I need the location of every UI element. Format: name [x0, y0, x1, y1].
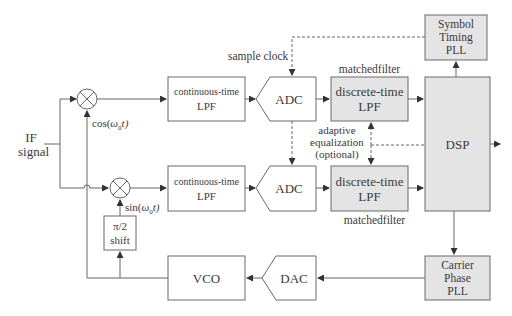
- phase-shift: π/2 shift: [104, 216, 136, 250]
- lpf-bottom-line2: LPF: [197, 189, 216, 204]
- dlpf-top-line1: discrete-time: [336, 84, 404, 99]
- dac-label: DAC: [280, 271, 307, 286]
- vco: VCO: [168, 256, 245, 300]
- dlpf-bottom-line2: LPF: [358, 189, 380, 204]
- adc-top-label: ADC: [275, 92, 302, 107]
- cppll-line2: Phase: [444, 272, 471, 285]
- adaptive-eq-line2: equalization: [305, 136, 369, 148]
- stpll-line1: Symbol: [438, 18, 474, 31]
- lpf-top: continuous-time LPF: [168, 77, 245, 121]
- dac: DAC: [272, 256, 316, 300]
- adaptive-eq-line1: adaptive: [305, 124, 369, 136]
- adc-bottom-label: ADC: [275, 181, 302, 196]
- matched-filter-top-caption: matchedfilter: [331, 63, 408, 76]
- lpf-top-line1: continuous-time: [174, 84, 239, 99]
- adc-top: ADC: [262, 77, 316, 121]
- adaptive-equalization-label: adaptive equalization (optional): [305, 124, 369, 160]
- dlpf-top-line2: LPF: [358, 99, 380, 114]
- if-label-line2: signal: [18, 145, 44, 159]
- stpll-line3: PLL: [446, 44, 466, 57]
- sample-clock-label: sample clock: [228, 50, 288, 63]
- dlpf-bottom: discrete-time LPF: [331, 166, 408, 211]
- adc-bottom: ADC: [262, 166, 316, 211]
- lpf-bottom-line1: continuous-time: [174, 174, 239, 189]
- dsp: DSP: [425, 77, 490, 211]
- matched-filter-bottom-caption: matchedfilter: [336, 214, 413, 227]
- lpf-top-line2: LPF: [197, 99, 216, 114]
- phase-shift-line2: shift: [110, 233, 130, 247]
- vco-label: VCO: [193, 271, 220, 286]
- cos-label: cos(ω0t): [92, 117, 128, 135]
- dlpf-bottom-line1: discrete-time: [336, 174, 404, 189]
- dsp-label: DSP: [446, 137, 470, 152]
- symbol-timing-pll: Symbol Timing PLL: [425, 15, 487, 60]
- carrier-phase-pll: Carrier Phase PLL: [425, 256, 490, 300]
- phase-shift-line1: π/2: [113, 219, 127, 233]
- lpf-bottom: continuous-time LPF: [168, 166, 245, 211]
- cppll-line1: Carrier: [441, 259, 474, 272]
- cppll-line3: PLL: [447, 285, 467, 298]
- stpll-line2: Timing: [439, 31, 472, 44]
- dlpf-top: discrete-time LPF: [331, 77, 408, 121]
- wire-to-bottom-mixer: [60, 185, 108, 188]
- if-label-line1: IF: [18, 131, 44, 145]
- adaptive-eq-line3: (optional): [305, 148, 369, 160]
- if-signal-label: IF signal: [18, 131, 44, 159]
